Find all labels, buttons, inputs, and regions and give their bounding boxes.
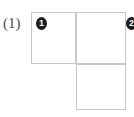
figure-number-label: (1) (3, 13, 29, 33)
grid-cell-r0c0[interactable]: 1 (31, 12, 76, 64)
grid-cell-r0c1[interactable]: 2 (76, 12, 126, 64)
polyomino-grid: 1 2 (31, 12, 126, 110)
circled-number-1-icon: 1 (36, 17, 47, 30)
circled-number-2-icon: 2 (126, 17, 134, 30)
figure-panel: (1) 1 2 (0, 0, 134, 117)
grid-cell-r1c1[interactable] (76, 64, 126, 110)
